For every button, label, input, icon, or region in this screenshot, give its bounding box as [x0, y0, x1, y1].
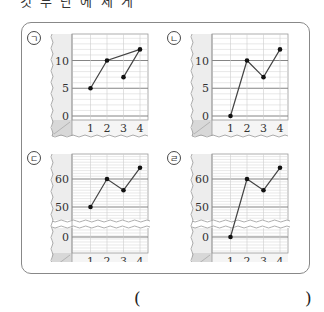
svg-text:60: 60: [55, 173, 69, 186]
svg-text:10: 10: [55, 55, 69, 68]
svg-text:0: 0: [202, 231, 209, 244]
svg-text:3: 3: [120, 255, 127, 262]
svg-text:4: 4: [137, 255, 144, 262]
svg-text:10: 10: [195, 55, 209, 68]
svg-text:2: 2: [244, 122, 251, 135]
question-text-fragment: 것 두 단 에 세 게: [20, 0, 135, 10]
svg-text:50: 50: [55, 201, 69, 214]
svg-text:0: 0: [62, 231, 69, 244]
svg-text:3: 3: [260, 122, 267, 135]
svg-text:0: 0: [62, 110, 69, 123]
svg-text:1: 1: [227, 122, 234, 135]
answer-paren-open: (: [134, 288, 141, 308]
svg-text:4: 4: [137, 122, 144, 135]
chart-panel-1: 05101234ㄴ: [162, 30, 292, 142]
svg-text:0: 0: [202, 110, 209, 123]
svg-text:50: 50: [195, 201, 209, 214]
svg-text:ㄷ: ㄷ: [30, 154, 38, 164]
svg-text:ㄱ: ㄱ: [30, 34, 38, 44]
svg-text:ㄹ: ㄹ: [170, 154, 178, 164]
svg-text:ㄴ: ㄴ: [170, 34, 178, 44]
svg-text:4: 4: [277, 255, 284, 262]
svg-text:5: 5: [202, 82, 209, 95]
svg-text:3: 3: [260, 255, 267, 262]
svg-text:60: 60: [195, 173, 209, 186]
svg-text:1: 1: [227, 255, 234, 262]
chart-panel-3: 050601234ㄹ: [162, 150, 292, 262]
svg-text:4: 4: [277, 122, 284, 135]
chart-panel-0: 05101234ㄱ: [22, 30, 152, 142]
svg-text:2: 2: [104, 255, 111, 262]
svg-text:3: 3: [120, 122, 127, 135]
svg-text:2: 2: [244, 255, 251, 262]
chart-panel-2: 050601234ㄷ: [22, 150, 152, 262]
svg-text:2: 2: [104, 122, 111, 135]
answer-paren-close: ): [305, 288, 312, 308]
answer-blank[interactable]: [145, 286, 305, 308]
svg-text:5: 5: [62, 82, 69, 95]
svg-text:1: 1: [87, 255, 94, 262]
svg-text:1: 1: [87, 122, 94, 135]
